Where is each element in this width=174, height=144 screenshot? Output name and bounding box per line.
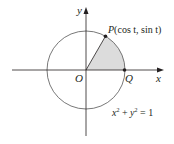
- unit-circle-diagram: y x O Q P(cos t, sin t) x2 + y2 = 1: [0, 0, 174, 144]
- point-p-coords: (cos t, sin t): [114, 24, 161, 36]
- origin-label: O: [75, 72, 83, 84]
- circle-equation: x2 + y2 = 1: [111, 107, 153, 118]
- point-p-label: P(cos t, sin t): [107, 24, 161, 36]
- shaded-sector: [86, 36, 125, 70]
- equation-equals: = 1: [138, 107, 154, 118]
- equation-plus: +: [119, 107, 130, 118]
- point-p: [104, 34, 108, 38]
- x-axis-label: x: [155, 72, 161, 84]
- point-p-name: P: [107, 24, 114, 35]
- y-axis-arrow-icon: [84, 7, 89, 14]
- y-axis-label: y: [76, 4, 82, 16]
- point-q-label: Q: [125, 72, 133, 84]
